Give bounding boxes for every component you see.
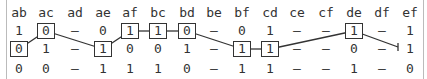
cell: – [314,23,338,39]
cell: – [370,41,394,57]
cell: 0 [398,61,422,77]
column-header-de: de [342,5,366,21]
cell: – [314,61,338,77]
cell: 0 [230,23,254,39]
cell: 1 [258,23,282,39]
cell: 0 [118,41,142,57]
column-header-cf: cf [314,5,338,21]
column-header-ef: ef [398,5,422,21]
cell: 1 [258,61,282,77]
cell: – [63,61,87,77]
cell: 0 [175,61,199,77]
column-header-df: df [370,5,394,21]
boxed-cell: 1 [345,23,363,39]
boxed-cell: 1 [121,23,139,39]
cell: – [370,61,394,77]
cell: 1 [7,23,31,39]
column-header-ad: ad [63,5,87,21]
cell: – [285,61,309,77]
cell: – [314,41,338,57]
boxed-cell: 0 [37,23,55,39]
cell: 1 [118,61,142,77]
cell: – [285,23,309,39]
boxed-cell: 0 [178,23,196,39]
cell: – [202,23,226,39]
cell: 1 [398,41,422,57]
column-header-bd: bd [175,5,199,21]
boxed-cell: 1 [149,23,167,39]
cell: 1 [342,61,366,77]
cell: 1 [398,23,422,39]
column-header-ab: ab [7,5,31,21]
cell: 0 [342,41,366,57]
cell: 1 [146,61,170,77]
column-header-cd: cd [258,5,282,21]
cell: 1 [230,61,254,77]
cell: 1 [34,41,58,57]
column-header-bc: bc [146,5,170,21]
column-header-ce: ce [285,5,309,21]
boxed-cell: 1 [94,41,112,57]
column-header-ac: ac [34,5,58,21]
boxed-cell: 0 [10,41,28,57]
cell: – [202,61,226,77]
column-header-af: af [118,5,142,21]
boxed-cell: 1 [261,41,279,57]
boxed-cell: 1 [233,41,251,57]
cell: – [63,41,87,57]
cell: 0 [7,61,31,77]
cell: – [63,23,87,39]
cell: – [202,41,226,57]
cell: 0 [91,23,115,39]
column-header-ae: ae [91,5,115,21]
column-header-be: be [202,5,226,21]
cell: 0 [146,41,170,57]
cell: 0 [34,61,58,77]
cell: 1 [91,61,115,77]
cell: – [285,41,309,57]
cell: 1 [175,41,199,57]
cell: – [370,23,394,39]
column-header-bf: bf [230,5,254,21]
